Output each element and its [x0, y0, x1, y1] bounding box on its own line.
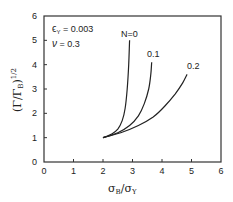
y-tick-label: 1: [32, 133, 37, 143]
epsilon-annotation: ϵY = 0.003: [52, 23, 93, 35]
nu-annotation: ν = 0.3: [52, 38, 80, 49]
y-tick-label: 0: [32, 157, 37, 167]
y-tick-label: 2: [32, 108, 37, 118]
x-tick-label: 6: [218, 166, 223, 176]
curve-02: [103, 74, 187, 137]
x-tick-label: 2: [100, 166, 105, 176]
y-tick-label: 4: [32, 60, 37, 70]
x-axis-label: σB/σY: [108, 182, 137, 196]
series-label-0-2: 0.2: [187, 61, 200, 71]
y-tick-label: 5: [32, 35, 37, 45]
series-label-n0: N=0: [121, 29, 138, 39]
x-tick-label: 0: [41, 166, 46, 176]
y-tick-label: 6: [32, 11, 37, 21]
x-tick-label: 3: [130, 166, 135, 176]
chart: 0123456 0123456 ϵY = 0.003 ν = 0.3 N=0 0…: [0, 0, 233, 202]
x-tick-label: 1: [71, 166, 76, 176]
x-tick-label: 5: [189, 166, 194, 176]
curve-N0: [103, 40, 130, 137]
series-label-0-1: 0.1: [147, 49, 160, 59]
y-axis-label: (Γ/ΓB)1/2: [10, 68, 25, 112]
y-axis: 0123456: [32, 11, 47, 167]
y-tick-label: 3: [32, 84, 37, 94]
x-tick-label: 4: [159, 166, 164, 176]
curve-01: [103, 62, 152, 138]
curves: [103, 40, 187, 137]
